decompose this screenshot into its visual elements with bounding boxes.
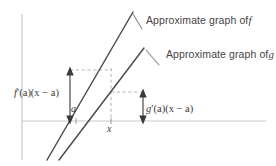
f-prime-expression: f′(a)(x − a) xyxy=(14,88,59,99)
dashed-guides xyxy=(70,68,144,121)
tick-label-a: a xyxy=(71,104,76,114)
tick-label-x: x xyxy=(107,124,111,134)
caption-graph-f: Approximate graph off xyxy=(146,15,252,26)
caption-graph-f-variable: f xyxy=(248,14,251,26)
f-prime-expression-body: ′(a)(x − a) xyxy=(17,87,59,98)
leader-f xyxy=(133,14,142,29)
caption-graph-g-variable: g xyxy=(268,48,274,60)
g-prime-expression: g′(a)(x − a) xyxy=(146,104,193,115)
approximation-figure: Approximate graph off Approximate graph … xyxy=(0,0,276,166)
line-f xyxy=(47,12,133,160)
leader-g xyxy=(146,50,159,65)
graph-lines xyxy=(47,12,144,160)
caption-graph-f-text: Approximate graph of xyxy=(146,14,248,26)
caption-graph-g-text: Approximate graph of xyxy=(166,48,268,60)
f-prime-arrow xyxy=(67,68,73,123)
measure-arrows xyxy=(67,68,146,123)
caption-graph-g: Approximate graph ofg xyxy=(166,49,274,60)
g-prime-expression-body: ′(a)(x − a) xyxy=(151,103,193,114)
